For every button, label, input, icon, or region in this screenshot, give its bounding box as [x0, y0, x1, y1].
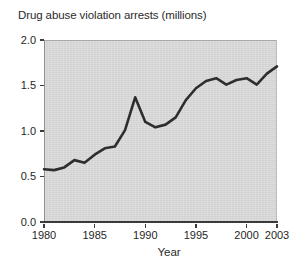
line-series-drug-abuse-arrests	[44, 66, 277, 170]
plot-area	[44, 40, 277, 222]
x-axis-tick-label: 1995	[184, 230, 208, 241]
x-axis-tick-mark	[145, 224, 147, 228]
x-axis-tick-label: 1985	[82, 230, 106, 241]
y-axis-tick-label: 2.0	[2, 35, 36, 46]
y-axis-tick-label: 1.0	[2, 126, 36, 137]
x-axis-tick-mark	[43, 224, 45, 228]
x-axis-tick-label: 1980	[32, 230, 56, 241]
chart-title: Drug abuse violation arrests (millions)	[18, 8, 206, 22]
x-axis-title: Year	[0, 246, 298, 258]
y-axis-tick-label: 0.0	[2, 217, 36, 228]
x-axis-tick-mark	[276, 224, 278, 228]
x-axis-tick-label: 1990	[133, 230, 157, 241]
chart-figure: Drug abuse violation arrests (millions) …	[0, 0, 298, 272]
y-axis-tick-label: 0.5	[2, 171, 36, 182]
x-axis-tick-mark	[195, 224, 197, 228]
x-axis-line	[44, 221, 278, 223]
x-axis-tick-mark	[246, 224, 248, 228]
x-axis-tick-label: 2003	[265, 230, 289, 241]
y-axis-tick-label: 1.5	[2, 80, 36, 91]
data-series-line	[44, 40, 277, 222]
x-axis-tick-label: 2000	[234, 230, 258, 241]
x-axis-tick-mark	[94, 224, 96, 228]
